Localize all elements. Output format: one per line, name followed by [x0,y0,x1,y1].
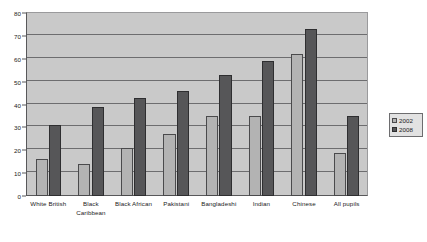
x-tick-label: White British [27,200,70,209]
bar-2002[interactable] [163,134,175,196]
bar-group [283,13,326,196]
x-tick-label: Indian [240,200,283,209]
bar-2008[interactable] [347,116,359,196]
y-tick-label-80: 80 [14,10,21,17]
y-tick-label-30: 30 [14,124,21,131]
legend-label-2002: 2002 [399,117,413,124]
x-tick-label: Chinese [283,200,326,209]
x-tick-label: Bangladeshi [198,200,241,209]
bar-group [198,13,241,196]
y-tick-label-10: 10 [14,170,21,177]
bar-2002[interactable] [78,164,90,196]
x-tick-label: Pakistani [155,200,198,209]
bar-2008[interactable] [262,61,274,196]
chart-screenshot: 01020304050607080 White BritishBlackCari… [0,0,427,242]
y-tick-label-60: 60 [14,55,21,62]
bar-2002[interactable] [249,116,261,196]
bar-2002[interactable] [334,153,346,196]
bar-group [155,13,198,196]
bar-group [112,13,155,196]
y-tick-label-0: 0 [17,193,21,200]
bars-layer [27,13,368,196]
y-tick-label-40: 40 [14,101,21,108]
bar-2008[interactable] [219,75,231,196]
bar-2002[interactable] [291,54,303,196]
legend-label-2008: 2008 [399,126,413,133]
x-tick-label: Black African [112,200,155,209]
y-tick-label-20: 20 [14,147,21,154]
legend-swatch-2008-icon [392,127,397,132]
bar-group [240,13,283,196]
bar-2008[interactable] [134,98,146,196]
bar-2008[interactable] [305,29,317,196]
bar-2008[interactable] [92,107,104,196]
y-tick-label-50: 50 [14,78,21,85]
legend-item-2008[interactable]: 2008 [392,125,420,134]
chart-legend: 2002 2008 [389,113,423,137]
bar-group [70,13,113,196]
legend-swatch-2002-icon [392,118,397,123]
bar-group [27,13,70,196]
x-axis: White BritishBlackCaribbeanBlack African… [27,200,368,240]
cropped-title-sliver [0,0,427,5]
bar-2002[interactable] [206,116,218,196]
bar-group [325,13,368,196]
legend-item-2002[interactable]: 2002 [392,116,420,125]
x-tick-label: All pupils [325,200,368,209]
bar-2002[interactable] [36,159,48,196]
bar-2008[interactable] [177,91,189,196]
x-tick-label: BlackCaribbean [70,200,113,217]
y-axis: 01020304050607080 [0,0,26,197]
bar-2002[interactable] [121,148,133,196]
y-tick-label-70: 70 [14,32,21,39]
bar-2008[interactable] [49,125,61,196]
